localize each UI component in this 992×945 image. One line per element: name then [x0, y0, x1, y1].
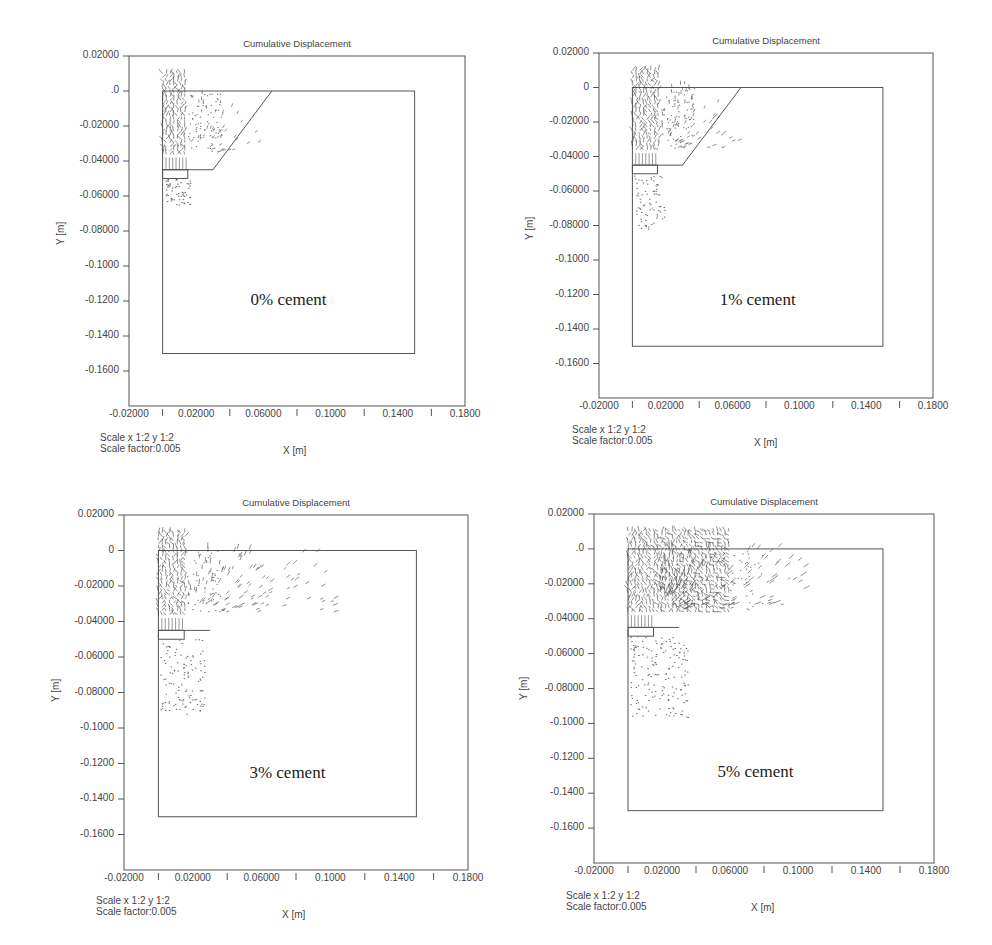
y-tick-label: -0.08000 — [49, 224, 119, 235]
y-tick-label: -0.06000 — [514, 647, 584, 658]
scale-factor: Scale factor:0.005 — [96, 906, 177, 917]
y-tick-label: -0.1600 — [44, 828, 114, 839]
y-tick-label: -0.02000 — [44, 579, 114, 590]
x-tick-label: -0.02000 — [104, 872, 143, 883]
x-tick-label: 0.06000 — [245, 408, 281, 419]
y-tick-label: -0.1600 — [519, 357, 589, 368]
y-tick-label: -0.1000 — [44, 721, 114, 732]
plot-area — [0, 470, 496, 940]
y-tick-label: -0.06000 — [519, 184, 589, 195]
x-tick-label: -0.02000 — [579, 400, 618, 411]
y-tick-label: -0.08000 — [519, 219, 589, 230]
y-tick-label: -0.1400 — [519, 322, 589, 333]
scale-info: Scale x 1:2 y 1:2 Scale factor:0.005 — [100, 432, 181, 454]
x-axis-label: X [m] — [751, 902, 774, 913]
y-tick-label: .0 — [49, 84, 119, 95]
x-tick-label: 0.02000 — [644, 865, 680, 876]
y-tick-label: -0.02000 — [514, 577, 584, 588]
x-tick-label: 0.1800 — [918, 400, 949, 411]
scale-factor: Scale factor:0.005 — [566, 901, 647, 912]
y-tick-label: -0.1600 — [49, 364, 119, 375]
y-tick-label: -0.04000 — [49, 154, 119, 165]
cement-label: 0% cement — [251, 290, 327, 310]
x-tick-label: 0.06000 — [244, 872, 280, 883]
y-tick-label: -0.1400 — [44, 792, 114, 803]
x-tick-label: 0.1400 — [851, 865, 882, 876]
y-tick-label: -0.06000 — [44, 650, 114, 661]
y-tick-label: 0.02000 — [49, 49, 119, 60]
y-tick-label: .0 — [514, 542, 584, 553]
scale-factor: Scale factor:0.005 — [572, 435, 653, 446]
x-axis-label: X [m] — [282, 909, 305, 920]
x-tick-label: 0.1000 — [784, 400, 815, 411]
x-tick-label: 0.1400 — [384, 872, 415, 883]
x-tick-label: 0.1000 — [315, 872, 346, 883]
y-tick-label: 0 — [44, 544, 114, 555]
cement-label: 1% cement — [720, 290, 796, 310]
y-tick-label: -0.04000 — [514, 612, 584, 623]
y-tick-label: -0.1200 — [519, 288, 589, 299]
x-tick-label: -0.02000 — [109, 408, 148, 419]
y-tick-label: -0.1200 — [514, 751, 584, 762]
x-tick-label: 0.1400 — [851, 400, 882, 411]
y-tick-label: -0.02000 — [49, 119, 119, 130]
scale-info: Scale x 1:2 y 1:2 Scale factor:0.005 — [566, 890, 647, 912]
scale-ratio: Scale x 1:2 y 1:2 — [572, 424, 653, 435]
x-tick-label: 0.1800 — [453, 872, 484, 883]
x-tick-label: -0.02000 — [574, 865, 613, 876]
y-tick-label: -0.02000 — [519, 115, 589, 126]
x-axis-label: X [m] — [754, 437, 777, 448]
y-tick-label: -0.04000 — [44, 615, 114, 626]
scale-info: Scale x 1:2 y 1:2 Scale factor:0.005 — [572, 424, 653, 446]
x-tick-label: 0.02000 — [178, 408, 214, 419]
y-tick-label: -0.1000 — [519, 253, 589, 264]
x-tick-label: 0.1000 — [315, 408, 346, 419]
y-tick-label: -0.1400 — [514, 786, 584, 797]
scale-factor: Scale factor:0.005 — [100, 443, 181, 454]
cement-label: 3% cement — [249, 763, 325, 783]
y-tick-label: 0.02000 — [519, 46, 589, 57]
y-tick-label: 0.02000 — [514, 507, 584, 518]
y-tick-label: -0.1200 — [44, 757, 114, 768]
x-tick-label: 0.06000 — [715, 400, 751, 411]
x-tick-label: 0.02000 — [648, 400, 684, 411]
y-tick-label: -0.08000 — [44, 686, 114, 697]
y-tick-label: -0.1400 — [49, 329, 119, 340]
x-tick-label: 0.1800 — [450, 408, 481, 419]
cement-label: 5% cement — [718, 762, 794, 782]
x-tick-label: 0.02000 — [175, 872, 211, 883]
scale-ratio: Scale x 1:2 y 1:2 — [566, 890, 647, 901]
y-tick-label: -0.1000 — [49, 259, 119, 270]
scale-ratio: Scale x 1:2 y 1:2 — [100, 432, 181, 443]
x-tick-label: 0.1800 — [919, 865, 950, 876]
y-tick-label: 0.02000 — [44, 508, 114, 519]
scale-ratio: Scale x 1:2 y 1:2 — [96, 895, 177, 906]
plot-area — [0, 0, 496, 470]
x-tick-label: 0.06000 — [712, 865, 748, 876]
y-tick-label: 0 — [519, 81, 589, 92]
y-tick-label: -0.1200 — [49, 294, 119, 305]
y-tick-label: -0.1600 — [514, 821, 584, 832]
y-tick-label: -0.08000 — [514, 682, 584, 693]
y-tick-label: -0.04000 — [519, 150, 589, 161]
x-tick-label: 0.1400 — [383, 408, 414, 419]
y-tick-label: -0.06000 — [49, 189, 119, 200]
scale-info: Scale x 1:2 y 1:2 Scale factor:0.005 — [96, 895, 177, 917]
x-axis-label: X [m] — [283, 445, 306, 456]
x-tick-label: 0.1000 — [783, 865, 814, 876]
y-tick-label: -0.1000 — [514, 716, 584, 727]
